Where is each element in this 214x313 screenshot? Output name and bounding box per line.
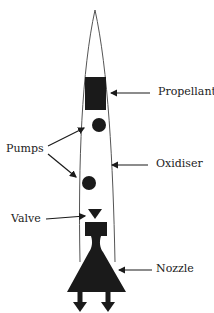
nozzle-shape — [67, 222, 126, 292]
oxidiser-label: Oxidiser — [156, 157, 203, 170]
pump-upper — [92, 118, 106, 132]
valve-label: Valve — [11, 212, 41, 225]
exhaust-arrow-left — [73, 292, 87, 312]
pump-lower — [82, 176, 96, 190]
pumps-label: Pumps — [6, 142, 44, 155]
propellant-tank — [85, 77, 106, 110]
valve-symbol — [88, 209, 102, 219]
pumps-pointer-arrow-upper — [48, 128, 84, 146]
nozzle-label: Nozzle — [156, 262, 194, 275]
exhaust-arrow-right — [101, 292, 115, 312]
propellant-label: Propellant — [158, 85, 214, 98]
pumps-pointer-arrow-lower — [48, 154, 76, 177]
